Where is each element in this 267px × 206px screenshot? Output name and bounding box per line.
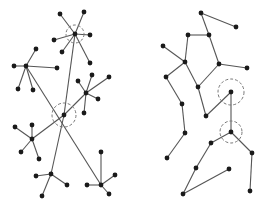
- graph-edge: [167, 133, 185, 158]
- graph-edge: [26, 66, 101, 185]
- graph-node: [60, 50, 65, 55]
- graph-node: [58, 12, 63, 17]
- graph-node: [85, 183, 90, 188]
- graph-node: [12, 64, 17, 69]
- graph-edge: [26, 66, 33, 90]
- graph-node: [24, 64, 29, 69]
- graph-edge: [185, 62, 198, 87]
- graph-node: [62, 113, 67, 118]
- graph-node: [88, 33, 93, 38]
- graph-edge: [166, 77, 182, 104]
- graph-node: [37, 157, 42, 162]
- graph-node: [183, 60, 188, 65]
- graph-node: [113, 173, 118, 178]
- right-graph: [161, 11, 255, 197]
- graph-node: [40, 194, 45, 199]
- graph-node: [99, 150, 104, 155]
- graph-node: [181, 192, 186, 197]
- graph-node: [183, 131, 188, 136]
- graph-node: [199, 11, 204, 16]
- network-graphs-svg: [0, 0, 267, 206]
- graph-node: [31, 88, 36, 93]
- graph-node: [82, 111, 87, 116]
- graph-edge: [209, 35, 219, 64]
- graph-edge: [250, 153, 252, 191]
- graph-node: [52, 38, 57, 43]
- graph-edge: [211, 132, 231, 143]
- graph-edge: [60, 14, 75, 34]
- graph-node: [84, 91, 89, 96]
- graph-node: [99, 183, 104, 188]
- graph-node: [229, 90, 234, 95]
- graph-node: [88, 61, 93, 66]
- graph-edge: [32, 139, 39, 159]
- graph-node: [55, 66, 60, 71]
- graph-edge: [21, 139, 32, 152]
- graph-node: [30, 123, 35, 128]
- graph-node: [90, 73, 95, 78]
- graph-edge: [26, 49, 36, 66]
- graph-edge: [15, 127, 32, 139]
- graph-node: [49, 172, 54, 177]
- graph-edge: [18, 66, 26, 89]
- graph-node: [19, 150, 24, 155]
- graph-node: [217, 62, 222, 67]
- graph-edge: [231, 132, 252, 153]
- graph-edge: [86, 77, 109, 93]
- graph-node: [34, 174, 39, 179]
- graph-node: [13, 125, 18, 130]
- graph-node: [180, 102, 185, 107]
- graph-node: [34, 47, 39, 52]
- graph-node: [186, 33, 191, 38]
- graph-node: [65, 183, 70, 188]
- graph-node: [76, 79, 81, 84]
- graph-node: [209, 141, 214, 146]
- graph-edge: [84, 93, 86, 113]
- graph-edge: [183, 169, 229, 194]
- graph-edge: [163, 46, 185, 62]
- graph-node: [196, 85, 201, 90]
- graph-edge: [198, 64, 219, 87]
- graph-node: [245, 66, 250, 71]
- graph-node: [248, 189, 253, 194]
- graph-diagram: [0, 0, 267, 206]
- graph-edge: [42, 174, 51, 196]
- graph-node: [164, 75, 169, 80]
- graph-node: [73, 32, 78, 37]
- graph-edge: [166, 62, 185, 77]
- graph-node: [30, 137, 35, 142]
- graph-node: [82, 10, 87, 15]
- graph-edge: [219, 64, 247, 68]
- graph-node: [107, 192, 112, 197]
- graph-node: [107, 75, 112, 80]
- graph-node: [204, 114, 209, 119]
- graph-node: [250, 151, 255, 156]
- graph-edge: [182, 104, 185, 133]
- graph-node: [96, 97, 101, 102]
- graph-node: [16, 87, 21, 92]
- graph-node: [227, 167, 232, 172]
- graph-edge: [75, 34, 90, 63]
- graph-edge: [51, 174, 67, 185]
- left-graph: [12, 10, 118, 199]
- graph-edge: [75, 12, 84, 34]
- graph-edge: [196, 143, 211, 168]
- graph-edge: [198, 87, 206, 116]
- graph-node: [165, 156, 170, 161]
- graph-node: [207, 33, 212, 38]
- graph-node: [161, 44, 166, 49]
- graph-edge: [26, 66, 57, 68]
- graph-node: [234, 25, 239, 30]
- graph-node: [194, 166, 199, 171]
- graph-edge: [201, 13, 236, 27]
- graph-node: [229, 130, 234, 135]
- graph-edge: [101, 175, 115, 185]
- graph-edge: [185, 35, 188, 62]
